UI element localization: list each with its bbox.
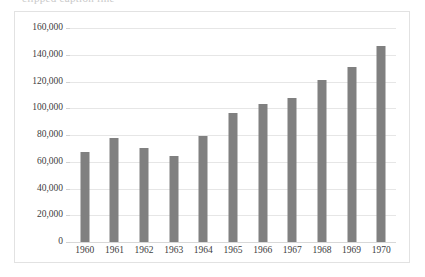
clipped-caption-strip: clipped caption line (0, 0, 425, 9)
x-axis-label: 1964 (194, 246, 213, 256)
x-axis-label: 1968 (312, 246, 331, 256)
bar[interactable] (347, 67, 356, 242)
y-axis-label: 100,000 (32, 104, 63, 114)
bar-slot (307, 28, 337, 242)
bar[interactable] (140, 148, 149, 242)
bar-slot (218, 28, 248, 242)
y-axis-label: 20,000 (37, 211, 63, 221)
bar-slot (100, 28, 130, 242)
x-axis-label: 1966 (253, 246, 272, 256)
bar-slot (248, 28, 278, 242)
x-axis-label: 1965 (224, 246, 243, 256)
bar[interactable] (169, 156, 178, 242)
y-axis-label: 40,000 (37, 184, 63, 194)
y-axis-label: 120,000 (32, 77, 63, 87)
plot-area: 020,00040,00060,00080,000100,000120,0001… (70, 28, 396, 242)
x-axis-label: 1967 (283, 246, 302, 256)
bar-slot (337, 28, 367, 242)
y-axis-label: 160,000 (32, 23, 63, 33)
x-axis-label: 1962 (135, 246, 154, 256)
bar-slot (189, 28, 219, 242)
bar-slot (70, 28, 100, 242)
bar-slot (277, 28, 307, 242)
x-axis-label: 1970 (372, 246, 391, 256)
clipped-caption-text: clipped caption line (22, 0, 115, 4)
bar[interactable] (258, 104, 267, 242)
bar[interactable] (199, 136, 208, 242)
bar[interactable] (377, 46, 386, 242)
y-axis-tick (66, 242, 70, 243)
y-axis-label: 60,000 (37, 157, 63, 167)
x-axis-label: 1960 (75, 246, 94, 256)
y-axis-label: 0 (58, 237, 63, 247)
bar-slot (159, 28, 189, 242)
bar[interactable] (80, 152, 89, 242)
x-axis-label: 1961 (105, 246, 124, 256)
bar[interactable] (317, 80, 326, 243)
bar[interactable] (288, 98, 297, 242)
gridline (70, 242, 396, 243)
bar-chart: 020,00040,00060,00080,000100,000120,0001… (14, 11, 410, 263)
x-axis-labels-group: 1960196119621963196419651966196719681969… (70, 246, 396, 262)
x-axis-label: 1963 (164, 246, 183, 256)
y-axis-label: 140,000 (32, 50, 63, 60)
bar-slot (129, 28, 159, 242)
bar[interactable] (110, 138, 119, 242)
bar-slot (366, 28, 396, 242)
y-axis-label: 80,000 (37, 130, 63, 140)
x-axis-label: 1969 (342, 246, 361, 256)
bar[interactable] (228, 113, 237, 242)
bars-group (70, 28, 396, 242)
